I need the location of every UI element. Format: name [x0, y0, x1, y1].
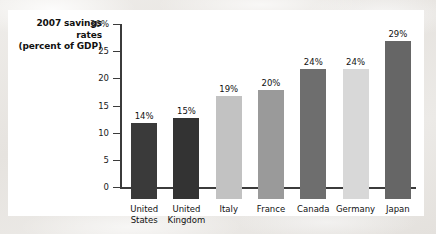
bar-group[interactable]: 29%Japan — [385, 41, 411, 199]
x-axis-category-line: Kingdom — [168, 215, 206, 226]
bar-value-label: 24% — [304, 57, 323, 67]
x-axis-category-line: United — [168, 204, 206, 215]
chart-panel: 2007 savings rates (percent of GDP) 0510… — [8, 10, 424, 216]
x-axis-category-line: Italy — [219, 204, 237, 215]
x-axis-category-line: Germany — [336, 204, 375, 215]
x-axis-category-line: Japan — [386, 204, 410, 215]
y-tick-mark — [113, 51, 121, 52]
x-axis-category-label: Japan — [386, 204, 410, 215]
y-tick-mark — [113, 187, 121, 188]
x-axis-category-label: Canada — [297, 204, 329, 215]
bar-group[interactable]: 15%UnitedKingdom — [173, 118, 199, 200]
x-axis-category-line: Canada — [297, 204, 329, 215]
y-tick-label: 10 — [98, 128, 109, 138]
y-tick-mark — [113, 133, 121, 134]
bar-group[interactable]: 14%UnitedStates — [131, 123, 157, 199]
bar[interactable] — [343, 69, 369, 199]
bar-group[interactable]: 24%Canada — [300, 69, 326, 199]
bar-value-label: 24% — [346, 57, 365, 67]
x-axis-category-label: Germany — [336, 204, 375, 215]
bar-value-label: 19% — [219, 84, 238, 94]
y-tick-label: 20 — [98, 73, 109, 83]
y-tick-label: 30% — [90, 19, 109, 29]
bar[interactable] — [300, 69, 326, 199]
bar-group[interactable]: 20%France — [258, 90, 284, 199]
bar-value-label: 15% — [177, 106, 196, 116]
bar[interactable] — [258, 90, 284, 199]
x-axis-category-label: UnitedKingdom — [168, 204, 206, 225]
bar-value-label: 29% — [388, 29, 407, 39]
y-tick-mark — [113, 24, 121, 25]
x-axis-category-label: UnitedStates — [130, 204, 158, 225]
bar[interactable] — [173, 118, 199, 200]
y-tick-label: 5 — [104, 155, 109, 165]
y-tick-mark — [113, 160, 121, 161]
x-axis-category-line: States — [130, 215, 158, 226]
y-tick-label: 0 — [104, 182, 109, 192]
bar-group[interactable]: 24%Germany — [343, 69, 369, 199]
chart-title-line-2: rates — [14, 30, 102, 42]
y-tick-label: 25 — [98, 46, 109, 56]
y-tick-mark — [113, 106, 121, 107]
bar-group[interactable]: 19%Italy — [216, 96, 242, 199]
bar[interactable] — [131, 123, 157, 199]
plot-area: 051015202530% 14%UnitedStates15%UnitedKi… — [120, 24, 416, 201]
chart-title: 2007 savings rates (percent of GDP) — [14, 18, 102, 53]
y-tick-label: 15 — [98, 101, 109, 111]
x-axis-category-line: France — [257, 204, 285, 215]
chart-title-line-1: 2007 savings — [14, 18, 102, 30]
x-axis-category-label: France — [257, 204, 285, 215]
y-tick-mark — [113, 78, 121, 79]
chart-title-line-3: (percent of GDP) — [14, 41, 102, 53]
x-axis-category-line: United — [130, 204, 158, 215]
x-axis-category-label: Italy — [219, 204, 237, 215]
bar-value-label: 20% — [262, 78, 281, 88]
bar-value-label: 14% — [135, 111, 154, 121]
bar[interactable] — [216, 96, 242, 199]
bar[interactable] — [385, 41, 411, 199]
